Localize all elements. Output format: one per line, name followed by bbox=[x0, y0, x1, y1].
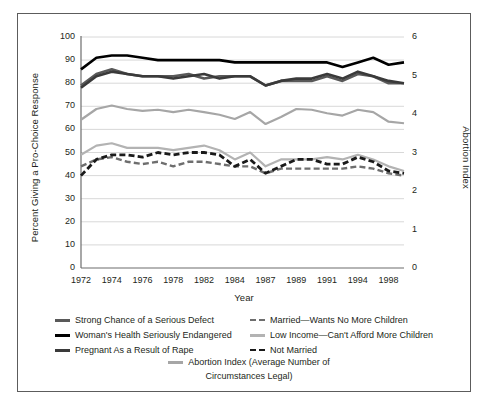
y-tick-right: 4 bbox=[412, 108, 438, 118]
y-tick-left: 10 bbox=[49, 239, 75, 249]
y-tick-left: 60 bbox=[49, 123, 75, 133]
legend-swatch bbox=[55, 330, 70, 340]
x-tick: 1998 bbox=[369, 275, 409, 285]
legend-swatch bbox=[250, 330, 265, 340]
y-axis-right-title: Abortion Index bbox=[461, 58, 472, 258]
legend-label: Low Income—Can't Afford More Children bbox=[270, 330, 433, 340]
legend-abortion-index: Abortion Index (Average Number of Circum… bbox=[0, 357, 488, 381]
y-tick-right: 5 bbox=[412, 70, 438, 80]
y-tick-right: 2 bbox=[412, 185, 438, 195]
y-tick-left: 40 bbox=[49, 170, 75, 180]
series-line-4 bbox=[81, 157, 404, 175]
y-tick-right: 6 bbox=[412, 31, 438, 41]
legend-label-line2: Circumstances Legal) bbox=[205, 371, 292, 381]
y-tick-right: 1 bbox=[412, 224, 438, 234]
y-axis-left-title: Percent Giving a Pro-Choice Response bbox=[29, 58, 40, 258]
figure-container: Percent Giving a Pro-Choice Response Abo… bbox=[0, 0, 488, 406]
legend-label: Strong Chance of a Serious Defect bbox=[75, 315, 214, 325]
legend-swatch-abortion-index bbox=[168, 357, 183, 367]
y-tick-left: 20 bbox=[49, 216, 75, 226]
legend-swatch bbox=[250, 315, 265, 325]
legend-label: Woman's Health Seriously Endangered bbox=[75, 330, 232, 340]
legend-label: Married—Wants No More Children bbox=[270, 315, 408, 325]
y-tick-left: 80 bbox=[49, 77, 75, 87]
legend-item: Strong Chance of a Serious Defect bbox=[55, 313, 250, 326]
y-tick-left: 70 bbox=[49, 100, 75, 110]
legend-label: Pregnant As a Result of Rape bbox=[75, 345, 194, 355]
legend-label: Not Married bbox=[270, 345, 317, 355]
legend-item: Woman's Health Seriously Endangered bbox=[55, 328, 250, 341]
legend-column-left: Strong Chance of a Serious DefectWoman's… bbox=[55, 313, 250, 356]
y-tick-right: 0 bbox=[412, 262, 438, 272]
legend-swatch bbox=[55, 315, 70, 325]
legend-swatch bbox=[250, 345, 265, 355]
y-tick-left: 0 bbox=[49, 262, 75, 272]
legend-item: Pregnant As a Result of Rape bbox=[55, 343, 250, 356]
legend-item: Married—Wants No More Children bbox=[250, 313, 480, 326]
legend-column-right: Married—Wants No More ChildrenLow Income… bbox=[250, 313, 480, 356]
legend-item: Low Income—Can't Afford More Children bbox=[250, 328, 480, 341]
legend-item: Not Married bbox=[250, 343, 480, 356]
legend-swatch bbox=[55, 345, 70, 355]
legend-item: Abortion Index (Average Number of bbox=[168, 357, 329, 370]
y-tick-left: 90 bbox=[49, 54, 75, 64]
chart-legend: Strong Chance of a Serious DefectWoman's… bbox=[0, 313, 488, 381]
y-tick-right: 3 bbox=[412, 147, 438, 157]
y-tick-left: 100 bbox=[49, 31, 75, 41]
y-tick-left: 50 bbox=[49, 147, 75, 157]
series-line-6 bbox=[81, 106, 404, 124]
series-line-2 bbox=[81, 72, 404, 88]
x-axis-title: Year bbox=[0, 292, 488, 303]
y-tick-left: 30 bbox=[49, 193, 75, 203]
legend-label: Abortion Index (Average Number of bbox=[188, 357, 329, 367]
series-line-0 bbox=[81, 55, 404, 69]
